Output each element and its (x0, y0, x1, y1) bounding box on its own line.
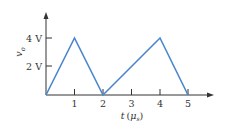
y-tick-label-2v: 2 V (26, 61, 42, 72)
axes (46, 16, 210, 95)
svg-text:vo: vo (13, 47, 27, 56)
x-axis-label: t(μs) (121, 110, 144, 122)
y-tick-label-4v: 4 V (26, 33, 42, 44)
y-axis-label: vo (13, 47, 27, 56)
x-axis-label-var: t (121, 110, 125, 121)
y-axis-label-subscript: o (19, 47, 27, 51)
x-tick-label-2: 2 (100, 98, 106, 109)
data-line-vo (46, 38, 188, 95)
x-tick-label-5: 5 (185, 98, 191, 109)
x-tick-label-1: 1 (71, 98, 77, 109)
y-axis-arrow-icon (44, 12, 49, 19)
x-tick-label-3: 3 (128, 98, 134, 109)
x-axis-arrow-icon (207, 93, 214, 98)
x-ticks (75, 89, 189, 95)
x-axis-label-paren-close: ) (140, 110, 144, 121)
x-tick-label-4: 4 (157, 98, 163, 109)
chart: 4 V 2 V 1 2 3 4 5 vo t(μs) (0, 0, 225, 124)
y-ticks (46, 38, 52, 66)
